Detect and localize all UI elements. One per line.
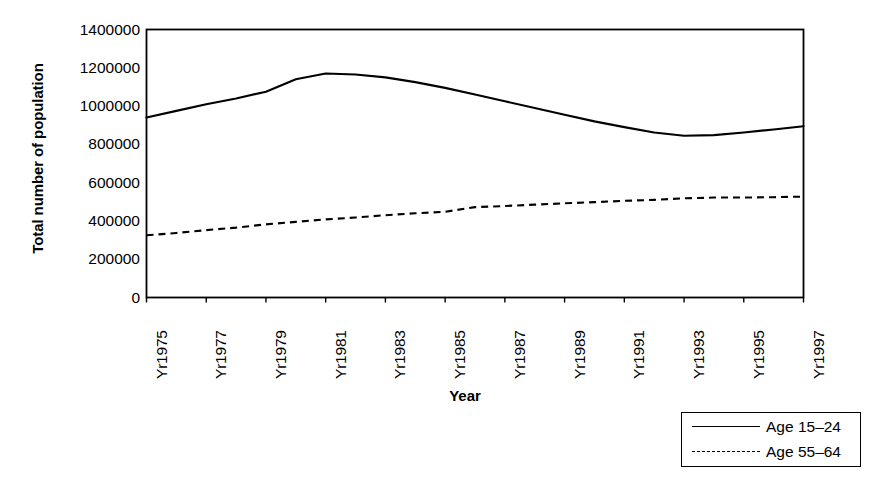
- legend-item-age-55-64: Age 55–64: [682, 439, 860, 465]
- x-axis-title: Year: [405, 387, 525, 404]
- chart-figure: Total number of population 0200000400000…: [0, 0, 871, 479]
- x-axis-tick-label: Yr1985: [451, 330, 469, 379]
- x-axis-tick-label: Yr1995: [750, 330, 768, 379]
- x-axis-tick-label: Yr1975: [153, 330, 171, 379]
- x-axis-tick-label: Yr1983: [391, 330, 409, 379]
- legend-swatch-dashed-icon: [692, 446, 760, 458]
- x-axis-tick-label: Yr1991: [630, 330, 648, 379]
- x-axis-tick-label: Yr1977: [212, 330, 230, 379]
- x-axis-tick-label: Yr1979: [272, 330, 290, 379]
- legend-swatch-solid-icon: [692, 421, 760, 433]
- x-axis-tick-label: Yr1997: [810, 330, 828, 379]
- legend-label-age-15-24: Age 15–24: [766, 418, 841, 436]
- legend-item-age-15-24: Age 15–24: [682, 414, 860, 440]
- x-axis-tick-labels: Yr1975Yr1977Yr1979Yr1981Yr1983Yr1985Yr19…: [0, 0, 871, 479]
- x-axis-tick-label: Yr1989: [571, 330, 589, 379]
- chart-legend: Age 15–24 Age 55–64: [681, 412, 861, 467]
- x-axis-tick-label: Yr1993: [690, 330, 708, 379]
- x-axis-tick-label: Yr1987: [511, 330, 529, 379]
- legend-label-age-55-64: Age 55–64: [766, 443, 841, 461]
- x-axis-tick-label: Yr1981: [332, 330, 350, 379]
